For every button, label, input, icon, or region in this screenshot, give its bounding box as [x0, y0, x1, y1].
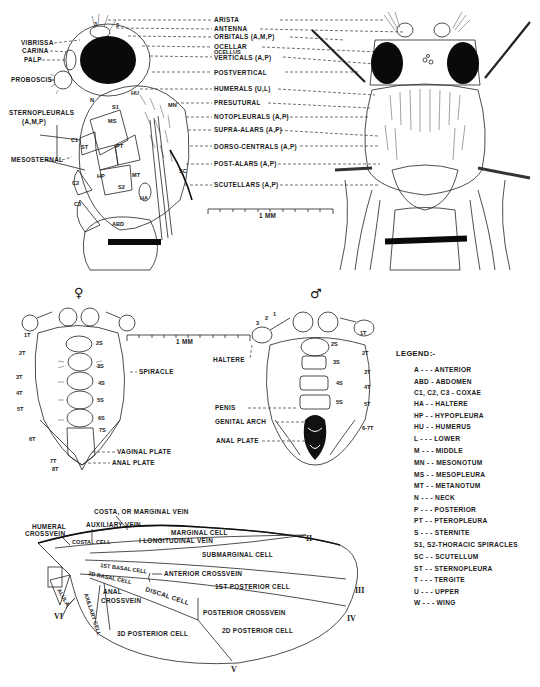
- lateral-right-callouts: ARISTA ANTENNA ORBITALS (A,M,P) OCELLAR …: [108, 16, 405, 189]
- svg-text:4T: 4T: [16, 390, 23, 396]
- svg-text:IV: IV: [347, 614, 356, 623]
- svg-text:DORSO-CENTRALS (A,P): DORSO-CENTRALS (A,P): [214, 143, 297, 151]
- svg-text:3T: 3T: [16, 374, 23, 380]
- svg-text:ST: ST: [81, 144, 89, 150]
- svg-text:1ST BASAL CELL: 1ST BASAL CELL: [100, 562, 148, 575]
- svg-text:2D BASAL CELL: 2D BASAL CELL: [88, 570, 133, 585]
- svg-text:6T: 6T: [29, 436, 36, 442]
- svg-text:5T: 5T: [17, 406, 24, 412]
- svg-text:3S: 3S: [333, 359, 340, 365]
- svg-text:P - - - POSTERIOR: P - - - POSTERIOR: [414, 506, 476, 513]
- svg-text:5S: 5S: [336, 399, 343, 405]
- svg-text:MARGINAL CELL: MARGINAL CELL: [171, 529, 228, 536]
- wing-diagram: COSTA, OR MARGINAL VEIN HUMERAL CROSSVEI…: [25, 508, 364, 674]
- svg-text:N - - - NECK: N - - - NECK: [414, 494, 455, 501]
- label-proboscis: PROBOSCIS: [11, 76, 52, 83]
- svg-text:HU - - HUMERUS: HU - - HUMERUS: [414, 423, 471, 430]
- svg-text:♀: ♀: [74, 285, 84, 300]
- label-sternopleurals: STERNOPLEURALS: [9, 109, 75, 116]
- female-abdomen: ♀ 2S 3S 4S 5S 6S 7S 1T 2T 3T 4T 5T 6T 7T…: [16, 285, 174, 472]
- svg-text:6-7T: 6-7T: [362, 425, 374, 431]
- svg-text:ORBITALS (A,M,P): ORBITALS (A,M,P): [214, 33, 275, 41]
- svg-text:3D POSTERIOR CELL: 3D POSTERIOR CELL: [117, 630, 188, 637]
- svg-text:AXILLARY CELL: AXILLARY CELL: [83, 592, 102, 636]
- svg-text:MN - - MESONOTUM: MN - - MESONOTUM: [414, 459, 483, 466]
- svg-text:5T: 5T: [364, 401, 371, 407]
- svg-text:C3: C3: [74, 201, 81, 207]
- svg-text:POST-ALARS (A,P): POST-ALARS (A,P): [214, 160, 277, 168]
- svg-text:ANAL: ANAL: [103, 588, 122, 595]
- svg-text:PT - - PTEROPLEURA: PT - - PTEROPLEURA: [414, 517, 488, 524]
- svg-text:ANTERIOR CROSSVEIN: ANTERIOR CROSSVEIN: [164, 570, 242, 577]
- svg-text:HP: HP: [97, 173, 105, 179]
- svg-text:5S: 5S: [97, 397, 104, 403]
- svg-text:4S: 4S: [336, 380, 343, 386]
- svg-text:8T: 8T: [52, 466, 59, 472]
- svg-text:POSTVERTICAL: POSTVERTICAL: [214, 69, 267, 76]
- svg-text:MS - - MESOPLEURA: MS - - MESOPLEURA: [414, 471, 485, 478]
- svg-text:C1, C2, C3 - COXAE: C1, C2, C3 - COXAE: [414, 389, 482, 397]
- svg-text:GENITAL ARCH: GENITAL ARCH: [215, 418, 266, 425]
- scale-bar-top: 1 MM: [208, 209, 333, 219]
- svg-text:ANTENNA: ANTENNA: [214, 25, 247, 32]
- male-abdomen: ♂ 3 2 1 2S 3S 4S 5S 1T 2T 3T 4T 5T 6-7T …: [213, 286, 374, 465]
- svg-text:1 MM: 1 MM: [259, 212, 276, 219]
- svg-text:6S: 6S: [98, 415, 105, 421]
- svg-text:L - - - LOWER: L - - - LOWER: [414, 435, 460, 442]
- drosophila-anatomy-diagram: N S1 MS C1 ST PT HP MT C2 S2 HA C3 ABD H…: [0, 0, 540, 687]
- label-vibrissa: VIBRISSA: [21, 39, 54, 46]
- abdomen-band: [108, 239, 161, 245]
- legend: LEGEND:- A - - - ANTERIOR ABD - ABDOMEN …: [396, 349, 518, 606]
- label-palp: PALP: [24, 56, 42, 63]
- label-sternopleurals-amp: (A,M,P): [22, 118, 46, 126]
- svg-text:CROSSVEIN: CROSSVEIN: [25, 530, 65, 537]
- svg-text:III: III: [355, 586, 364, 595]
- svg-text:N: N: [90, 97, 94, 103]
- svg-text:2T: 2T: [19, 350, 26, 356]
- lateral-view-fly: N S1 MS C1 ST PT HP MT C2 S2 HA C3 ABD H…: [9, 14, 405, 270]
- svg-text:ANAL PLATE: ANAL PLATE: [216, 437, 259, 444]
- svg-text:4S: 4S: [98, 380, 105, 386]
- svg-text:1T: 1T: [360, 330, 367, 336]
- svg-text:A - - - ANTERIOR: A - - - ANTERIOR: [414, 366, 471, 373]
- svg-text:S - - - STERNITE: S - - - STERNITE: [414, 529, 470, 536]
- svg-text:S1, S2-THORACIC SPIRACLES: S1, S2-THORACIC SPIRACLES: [414, 541, 518, 549]
- svg-text:S2: S2: [118, 184, 125, 190]
- svg-text:I LONGITUDINAL VEIN: I LONGITUDINAL VEIN: [139, 537, 213, 544]
- svg-text:NOTOPLEURALS (A,P): NOTOPLEURALS (A,P): [214, 113, 289, 121]
- svg-text:HALTERE: HALTERE: [213, 356, 245, 363]
- svg-text:POSTERIOR CROSSVEIN: POSTERIOR CROSSVEIN: [203, 609, 286, 616]
- svg-text:1ST POSTERIOR CELL: 1ST POSTERIOR CELL: [215, 583, 290, 590]
- svg-text:C2: C2: [72, 180, 79, 186]
- svg-text:3T: 3T: [364, 369, 371, 375]
- svg-text:♂: ♂: [310, 286, 322, 301]
- svg-text:VERTICALS (A,P): VERTICALS (A,P): [214, 54, 271, 62]
- svg-text:1: 1: [273, 311, 276, 317]
- svg-text:ALULA: ALULA: [56, 588, 71, 607]
- svg-text:3S: 3S: [97, 363, 104, 369]
- svg-text:2: 2: [116, 22, 119, 28]
- svg-text:2S: 2S: [96, 340, 103, 346]
- svg-text:W - - - WING: W - - - WING: [414, 599, 456, 606]
- svg-text:HA: HA: [140, 195, 148, 201]
- svg-text:1T: 1T: [24, 332, 31, 338]
- svg-text:MT - - METANOTUM: MT - - METANOTUM: [414, 482, 481, 489]
- svg-text:HUMERAL: HUMERAL: [32, 523, 66, 530]
- left-compound-eye: [371, 42, 403, 84]
- svg-text:SC - - SCUTELLUM: SC - - SCUTELLUM: [414, 553, 479, 560]
- svg-text:SUPRA-ALARS (A,P): SUPRA-ALARS (A,P): [214, 126, 282, 134]
- dorsal-abdomen-band: [385, 236, 467, 245]
- svg-text:2D POSTERIOR CELL: 2D POSTERIOR CELL: [222, 627, 293, 634]
- svg-text:COSTA, OR MARGINAL VEIN: COSTA, OR MARGINAL VEIN: [94, 508, 189, 516]
- svg-text:2T: 2T: [362, 350, 369, 356]
- svg-text:II: II: [306, 534, 312, 543]
- svg-text:HP - - HYPOPLEURA: HP - - HYPOPLEURA: [414, 412, 484, 419]
- svg-text:HA - - HALTERE: HA - - HALTERE: [414, 400, 468, 407]
- svg-text:7T: 7T: [50, 458, 57, 464]
- svg-text:MS: MS: [108, 118, 117, 124]
- svg-text:ST - - STERNOPLEURA: ST - - STERNOPLEURA: [414, 565, 493, 572]
- right-compound-eye: [447, 42, 479, 84]
- svg-text:MT: MT: [132, 172, 141, 178]
- svg-text:ABD - ABDOMEN: ABD - ABDOMEN: [414, 378, 472, 385]
- svg-text:ARISTA: ARISTA: [214, 16, 239, 23]
